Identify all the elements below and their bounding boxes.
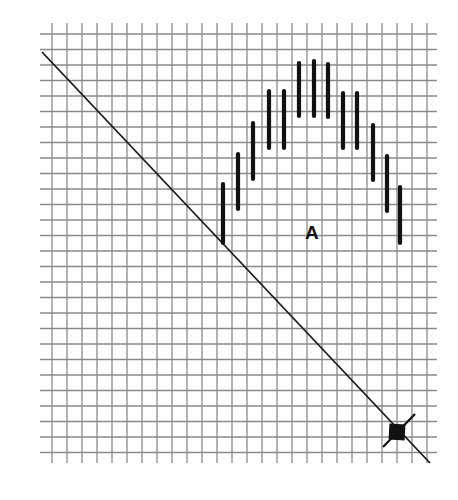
graph-paper-grid — [40, 23, 437, 463]
region-label-a: A — [305, 223, 319, 242]
vertical-bars-arc — [223, 61, 400, 243]
grid-diagram — [0, 0, 458, 500]
diagonal-line — [42, 52, 430, 463]
